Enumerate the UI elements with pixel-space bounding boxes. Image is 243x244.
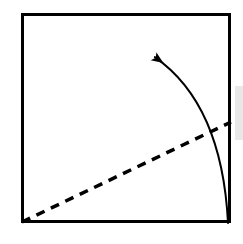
diagram-canvas [0,0,243,244]
gray-band [235,86,243,140]
geometric-diagram [0,0,243,244]
